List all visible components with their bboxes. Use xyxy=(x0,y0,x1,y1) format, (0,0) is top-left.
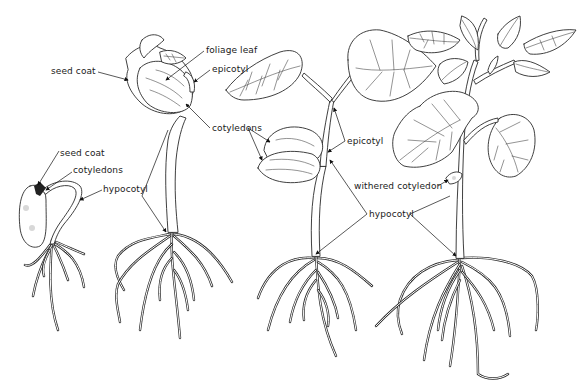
stage-1-seedling xyxy=(19,151,102,330)
stage-1-hypocotyl xyxy=(42,181,82,244)
stage-2-hypocotyl xyxy=(166,116,186,232)
stage-3-left-leaf xyxy=(226,51,302,100)
label-stage4-withered-cotyledon: withered cotyledon xyxy=(354,181,442,191)
stage-4-right-leaf xyxy=(488,114,535,177)
stage-2-roots xyxy=(116,232,232,338)
hypocotyl-pointers xyxy=(316,160,456,256)
stage-3-hypocotyl xyxy=(311,166,326,256)
stage-1-roots xyxy=(25,240,84,330)
stage-3-roots xyxy=(258,256,372,356)
label-hypocotyl: hypocotyl xyxy=(369,209,414,219)
label-stage3-epicotyl: epicotyl xyxy=(347,136,383,146)
label-stage2-epicotyl: epicotyl xyxy=(212,64,248,74)
label-stage1-seed-coat: seed coat xyxy=(60,148,105,158)
label-stage1-cotyledons: cotyledons xyxy=(73,165,123,175)
stage-4-stem xyxy=(456,60,478,258)
diagram-illustration xyxy=(0,0,585,389)
stage-4-roots xyxy=(376,258,538,379)
label-stage2-cotyledons: cotyledons xyxy=(212,123,262,133)
stage-1-seed xyxy=(19,185,46,247)
label-stage2-foliage-leaf: foliage leaf xyxy=(206,45,257,55)
label-stage2-seed-coat: seed coat xyxy=(51,66,96,76)
bean-germination-diagram: seed coat cotyledons hypocotyl seed coat… xyxy=(0,0,585,389)
label-stage1-hypocotyl: hypocotyl xyxy=(103,184,148,194)
stage-3-seedling xyxy=(226,30,436,356)
stage-3-epicotyl xyxy=(320,100,334,166)
